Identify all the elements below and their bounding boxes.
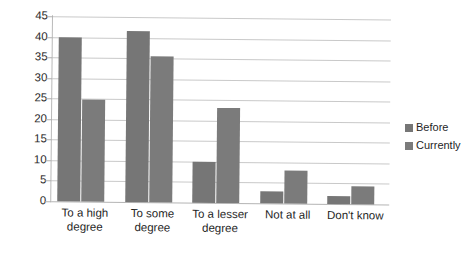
bar-group bbox=[328, 19, 385, 205]
y-axis-tick-mark bbox=[46, 160, 52, 161]
bar bbox=[328, 196, 351, 204]
y-axis-tick-label: 20 bbox=[13, 113, 47, 125]
chart-plot-block: 454035302520151050 To a highdegreeTo som… bbox=[0, 0, 469, 260]
bar bbox=[149, 56, 173, 202]
y-axis-tick-mark bbox=[45, 181, 51, 182]
y-axis-tick-label: 25 bbox=[13, 92, 47, 104]
bar bbox=[192, 162, 215, 203]
y-axis-tick-label: 30 bbox=[13, 72, 47, 84]
y-axis-tick-label: 35 bbox=[14, 51, 48, 63]
legend-label: Currently bbox=[416, 140, 461, 151]
x-axis-label-line: Don't know bbox=[312, 208, 398, 223]
bar bbox=[125, 31, 150, 202]
bar-group bbox=[125, 17, 182, 203]
bar-group bbox=[192, 18, 249, 204]
y-axis-tick-mark bbox=[46, 98, 52, 99]
bar bbox=[260, 191, 283, 204]
y-axis-tick-mark bbox=[47, 16, 53, 17]
y-axis-tick-mark bbox=[46, 119, 52, 120]
legend-swatch-icon bbox=[405, 142, 413, 150]
bar bbox=[81, 100, 105, 202]
legend-label: Before bbox=[416, 122, 448, 133]
bar bbox=[352, 186, 375, 205]
y-axis-tick-label: 45 bbox=[14, 10, 48, 22]
bar-group bbox=[260, 18, 317, 204]
bar-chart: 454035302520151050 To a highdegreeTo som… bbox=[0, 0, 469, 260]
bar bbox=[57, 37, 82, 202]
y-axis-tick-label: 15 bbox=[13, 133, 47, 145]
y-axis-tick-mark bbox=[47, 57, 53, 58]
y-axis-tick-label: 10 bbox=[13, 154, 47, 166]
legend-swatch-icon bbox=[405, 124, 413, 132]
bar bbox=[216, 108, 240, 203]
plot-area bbox=[51, 16, 391, 204]
y-axis-tick-label: 5 bbox=[12, 174, 46, 186]
y-axis-tick-label: 40 bbox=[14, 30, 48, 42]
bar bbox=[284, 171, 307, 204]
bar-group bbox=[57, 16, 114, 202]
chart-legend: BeforeCurrently bbox=[405, 122, 469, 158]
legend-item[interactable]: Before bbox=[405, 122, 469, 133]
x-axis-label-line: degree bbox=[177, 221, 263, 236]
x-axis-category-labels: To a highdegreeTo somedegreeTo a lesserd… bbox=[51, 205, 389, 253]
legend-item[interactable]: Currently bbox=[405, 140, 469, 151]
y-axis-tick-mark bbox=[46, 78, 52, 79]
y-axis-tick-mark bbox=[47, 37, 53, 38]
y-axis-tick-mark bbox=[46, 140, 52, 141]
y-axis-tick-mark bbox=[45, 201, 51, 202]
bar-groups bbox=[53, 16, 391, 19]
x-axis-category-label: Don't know bbox=[312, 208, 398, 223]
